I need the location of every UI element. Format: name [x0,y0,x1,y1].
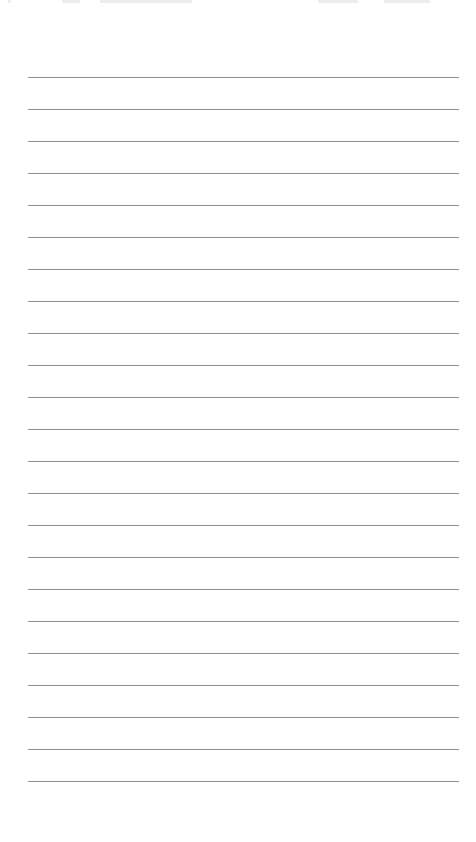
ruled-line [28,429,459,430]
ruled-line [28,333,459,334]
ruled-line [28,237,459,238]
ruled-line [28,173,459,174]
ruled-line [28,109,459,110]
ruled-line [28,301,459,302]
ruled-line [28,365,459,366]
ruled-line [28,781,459,782]
ruled-line [28,205,459,206]
ruled-line [28,589,459,590]
ruled-line [28,77,459,78]
ruled-line [28,557,459,558]
ruled-line [28,397,459,398]
lined-paper [0,0,476,842]
ruled-line [28,749,459,750]
ruled-line [28,653,459,654]
ruled-line [28,621,459,622]
ruled-line [28,461,459,462]
ruled-line [28,685,459,686]
ruled-line [28,493,459,494]
ruled-line [28,141,459,142]
ruled-line [28,269,459,270]
ruled-line [28,717,459,718]
ruled-line [28,525,459,526]
